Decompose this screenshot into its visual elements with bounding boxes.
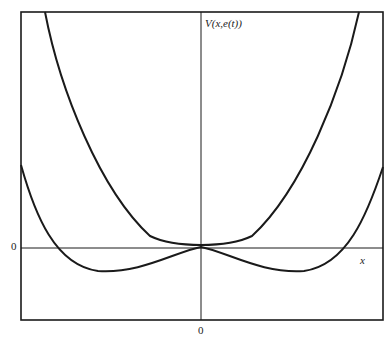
plot-frame xyxy=(21,12,383,320)
potential-diagram xyxy=(0,0,392,343)
y-zero-tick: 0 xyxy=(11,240,17,252)
x-zero-tick: 0 xyxy=(198,324,204,336)
single-well-curve xyxy=(45,12,359,245)
x-axis-label: x xyxy=(360,254,365,266)
double-well-curve xyxy=(21,165,383,271)
y-axis-label: V(x,e(t)) xyxy=(205,17,242,29)
